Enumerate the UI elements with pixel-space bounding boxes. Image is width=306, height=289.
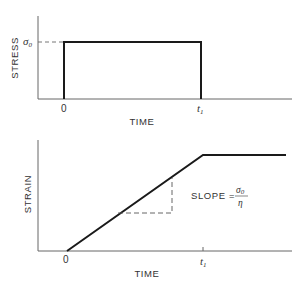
- strain-plot: SLOPE = σ0 η 0 t1 TIME STRAIN: [22, 140, 292, 279]
- stress-x-tick-t1: t1: [197, 102, 204, 116]
- stress-strain-diagram: σ0 0 t1 TIME STRESS SLOPE = σ0 η 0 t1 TI…: [0, 0, 306, 289]
- stress-x-tick-0: 0: [61, 103, 67, 114]
- slope-denominator: η: [238, 198, 243, 208]
- sigma0-tick-label: σ0: [23, 35, 32, 49]
- strain-x-tick-t1: t1: [200, 255, 207, 269]
- slope-label: SLOPE =: [191, 190, 235, 201]
- stress-pulse-curve: [64, 42, 201, 99]
- stress-x-axis-label: TIME: [129, 116, 154, 127]
- stress-y-axis-label: STRESS: [9, 37, 20, 79]
- strain-x-axis-label: TIME: [134, 268, 159, 279]
- strain-curve: [67, 155, 286, 251]
- stress-plot: σ0 0 t1 TIME STRESS: [9, 16, 292, 127]
- strain-x-tick-0: 0: [63, 254, 69, 265]
- slope-numerator: σ0: [236, 185, 245, 196]
- strain-y-axis-label: STRAIN: [22, 175, 33, 213]
